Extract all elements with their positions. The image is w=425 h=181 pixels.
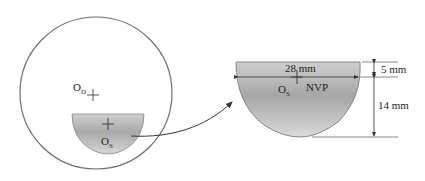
zoom-arrow [131, 102, 232, 136]
od-label: OD [73, 81, 86, 96]
bottom-height-label: 14 mm [378, 99, 409, 111]
width-label: 28 mm [285, 62, 316, 74]
eye-insert-diagram: OD OS 28 mm OS NVP 5 mm 14 mm [0, 0, 425, 181]
nvp-label: NVP [306, 81, 328, 93]
top-height-label: 5 mm [381, 63, 407, 75]
od-center-marker [87, 89, 99, 101]
